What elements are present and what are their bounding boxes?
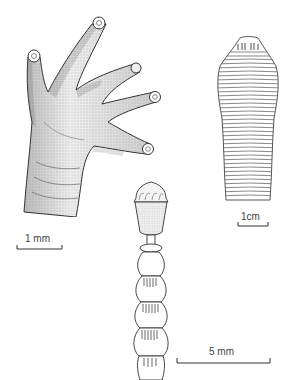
stalked-segments-illustration (126, 180, 176, 380)
scale-line-5mm (176, 346, 272, 368)
scale-bar-5mm: 5 mm (176, 346, 272, 368)
scale-line-1mm (16, 233, 64, 253)
scale-bar-1cm: 1cm (236, 211, 272, 231)
stalked-segments-drawing (126, 180, 176, 380)
segmented-body-illustration (214, 34, 284, 204)
scale-bar-1mm: 1 mm (16, 233, 64, 253)
scale-line-1cm (236, 211, 272, 231)
segmented-body-drawing (214, 34, 284, 204)
